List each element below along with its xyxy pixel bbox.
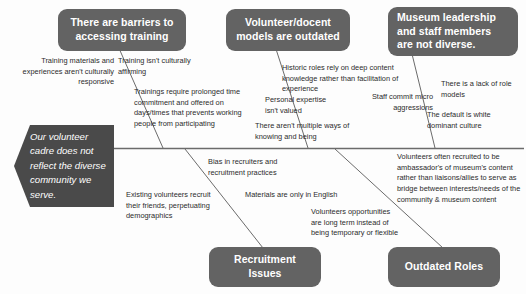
cause-prolonged-time-commitment: Trainings require prolonged time commitm… — [134, 87, 258, 130]
cause-personal-expertise: Personal expertise isn't valued — [265, 95, 335, 116]
cause-lack-of-role-models: There is a lack of role models — [441, 79, 521, 100]
category-label-leadership-not-diverse: Museum leadership and staff members are … — [397, 11, 509, 53]
effect-label: Our volunteer cadre does not reflect the… — [30, 130, 106, 202]
cause-training-materials: Training materials and experiences aren'… — [4, 56, 114, 88]
cause-materials-only-english: Materials are only in English — [245, 190, 349, 201]
cause-white-dominant-culture: The default is white dominant culture — [427, 110, 523, 131]
category-label-barriers-to-training: There are barriers to accessing training — [67, 16, 177, 44]
cause-long-term-opportunities: Volunteers opportunities are long term i… — [311, 207, 399, 239]
cause-historic-roles: Historic roles rely on deep content know… — [282, 63, 416, 95]
category-label-outdated-roles: Outdated Roles — [397, 260, 491, 274]
category-box-barriers-to-training[interactable]: There are barriers to accessing training — [58, 9, 186, 51]
cause-ways-of-knowing: There aren't multiple ways of knowing an… — [255, 121, 359, 142]
cause-existing-volunteers-recruit-friends: Existing volunteers recruit their friend… — [126, 190, 216, 222]
category-box-recruitment-issues[interactable]: Recruitment Issues — [209, 247, 321, 287]
cause-bias-in-recruiters: Bias in recruiters and recruitment pract… — [208, 157, 296, 178]
cause-not-culturally-affirming: Training isn't culturally affirming — [118, 56, 214, 77]
cause-micro-aggressions: Staff commit micro aggressions — [355, 92, 433, 113]
category-label-recruitment-issues: Recruitment Issues — [218, 253, 312, 281]
cause-ambassadors-not-liaisons: Volunteers often recruited to be ambassa… — [397, 152, 525, 205]
effect-box: Our volunteer cadre does not reflect the… — [14, 125, 114, 207]
category-box-outdated-roles[interactable]: Outdated Roles — [388, 247, 500, 287]
fishbone-diagram: Our volunteer cadre does not reflect the… — [0, 0, 526, 294]
category-box-volunteer-docent-models[interactable]: Volunteer/docent models are outdated — [226, 9, 350, 51]
category-label-volunteer-docent-models: Volunteer/docent models are outdated — [235, 16, 341, 44]
category-box-leadership-not-diverse[interactable]: Museum leadership and staff members are … — [388, 7, 518, 56]
